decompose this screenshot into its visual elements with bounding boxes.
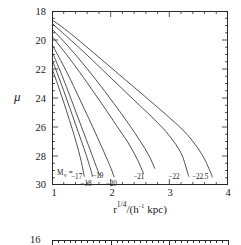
curve--22: [52, 23, 189, 176]
second-plot-tick: [93, 240, 94, 243]
second-plot-tick: [64, 240, 65, 243]
x-tick-label-4: 4: [218, 187, 238, 198]
second-plot-tick: [87, 240, 88, 243]
legend-prefix-subscript: V: [63, 173, 67, 178]
curve-label--22.5: −22.5: [192, 173, 209, 181]
y-tick-label-18: 18: [18, 6, 46, 17]
curve-label--21: −21: [133, 173, 144, 181]
curve-label--22: −22: [168, 173, 179, 181]
second-plot-tick: [81, 240, 82, 243]
x-axis-label-tail: kpc): [145, 203, 167, 215]
second-plot-tick: [152, 240, 153, 243]
second-plot-tick: [58, 240, 59, 243]
plot-area: [52, 11, 228, 185]
x-tick-label-2: 2: [102, 187, 122, 198]
curve-label--18: −18: [80, 180, 91, 188]
curve--20.7: [52, 36, 144, 173]
figure-panel: μ 18 20 22 24 26 28 30 1 2 3 4 MV = −17 …: [0, 0, 241, 245]
second-plot-fragment: 16: [0, 228, 241, 245]
y-tick-label-22: 22: [18, 64, 46, 75]
second-plot-tick: [199, 240, 200, 243]
second-plot-tick: [140, 240, 141, 243]
curve--19: [52, 52, 101, 177]
second-plot-tick: [181, 240, 182, 243]
second-plot-tick: [228, 240, 229, 245]
curve--21: [52, 29, 155, 168]
second-plot-tick: [52, 240, 53, 245]
second-plot-tick: [222, 240, 223, 243]
x-tick-label-3: 3: [160, 187, 180, 198]
second-plot-tick: [205, 240, 206, 243]
profile-curves-svg: [52, 11, 228, 185]
second-plot-tick: [134, 240, 135, 243]
second-plot-tick: [216, 240, 217, 243]
second-plot-tick: [105, 240, 106, 243]
curve-label--20: −20: [106, 180, 117, 188]
second-plot-tick: [122, 240, 123, 243]
y-tick-label-28: 28: [18, 151, 46, 162]
x-axis-label: r1/4/(h-1 kpc): [52, 202, 228, 215]
y-tick-label-20: 20: [18, 35, 46, 46]
second-plot-tick: [158, 240, 159, 243]
second-plot-tick: [128, 240, 129, 243]
second-plot-tick: [187, 240, 188, 243]
second-plot-tick: [210, 240, 211, 243]
second-plot-tick: [99, 240, 100, 243]
y-tick-label-26: 26: [18, 122, 46, 133]
second-plot-tick: [169, 240, 170, 245]
second-plot-y-tick-label-16: 16: [30, 234, 41, 245]
second-plot-tick: [175, 240, 176, 243]
second-plot-tick: [117, 240, 118, 243]
curve-label--19: −19: [92, 172, 103, 180]
x-axis-label-mid: /(h: [126, 203, 138, 215]
y-tick-label-30: 30: [18, 179, 46, 190]
curve--18: [52, 60, 92, 177]
y-tick-label-24: 24: [18, 93, 46, 104]
second-plot-tick: [70, 240, 71, 243]
second-plot-tick: [146, 240, 147, 243]
second-plot-tick: [111, 240, 112, 245]
second-plot-tick: [163, 240, 164, 243]
second-plot-tick: [75, 240, 76, 243]
second-plot-tick: [193, 240, 194, 243]
x-tick-label-1: 1: [44, 187, 64, 198]
x-axis-label-exponent: 1/4: [117, 201, 127, 209]
